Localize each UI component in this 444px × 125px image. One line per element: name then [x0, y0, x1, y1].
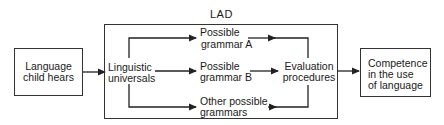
output-box-line3: of language	[368, 80, 423, 91]
universals-line2: universals	[108, 73, 155, 84]
grammar-a-line2: grammar A	[201, 39, 252, 50]
output-box: Competence in the use of language	[360, 48, 431, 97]
lad-label: LAD	[210, 9, 233, 20]
input-box-line2: child hears	[15, 72, 82, 83]
input-box: Language child hears	[14, 48, 83, 96]
grammar-other-line2: grammars	[200, 107, 247, 118]
evaluation-line2: procedures	[281, 72, 337, 83]
grammar-a-line1: Possible	[200, 27, 240, 38]
grammar-b-line2: grammar B	[200, 72, 252, 83]
